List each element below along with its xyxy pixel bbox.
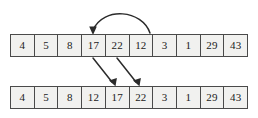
before-array-cell-7: 1 [177,35,201,56]
shift-arrow-17-path [93,58,112,82]
shift-arrow-22-head [133,78,141,86]
before-array-cell-3: 17 [82,35,106,56]
shift-arrow-22-path [117,58,136,82]
after-array-cell-6: 3 [153,87,177,108]
after-array-cell-7: 1 [177,87,201,108]
after-array-cell-2: 8 [58,87,82,108]
before-array-cell-4: 22 [106,35,130,56]
before-array-cell-5: 12 [130,35,154,56]
after-array-cell-9: 43 [224,87,247,108]
insertion-curve-arrow-path [93,14,150,33]
insertion-curve-arrow [89,14,150,35]
before-array-cell-9: 43 [224,35,247,56]
after-array-cell-3: 12 [82,87,106,108]
after-array-cell-5: 22 [130,87,154,108]
before-array: 458172212312943 [10,34,248,57]
shift-arrow-17 [93,58,117,86]
shift-arrow-22 [117,58,141,86]
after-array-cell-8: 29 [201,87,225,108]
before-array-cell-2: 8 [58,35,82,56]
after-array-cell-4: 17 [106,87,130,108]
sorting-diagram: 458172212312943 458121722312943 [0,0,258,118]
before-array-cell-8: 29 [201,35,225,56]
before-array-cell-0: 4 [11,35,35,56]
before-array-cell-6: 3 [153,35,177,56]
after-array-cell-1: 5 [35,87,59,108]
shift-arrow-17-head [109,78,117,86]
after-array: 458121722312943 [10,86,248,109]
before-array-cell-1: 5 [35,35,59,56]
after-array-cell-0: 4 [11,87,35,108]
